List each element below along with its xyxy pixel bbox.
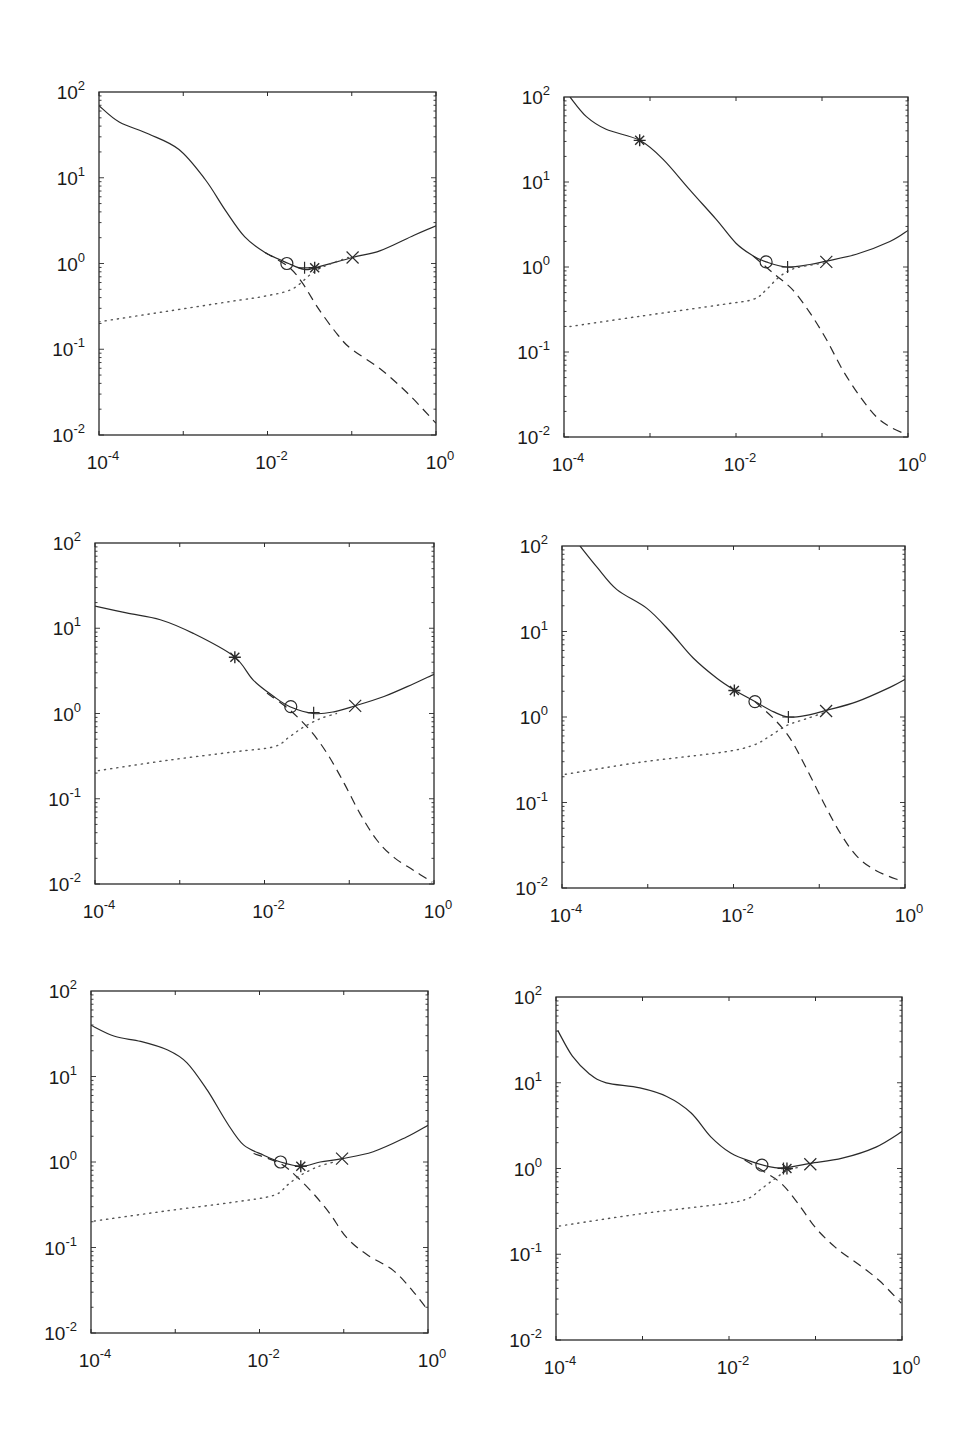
star-marker-icon xyxy=(229,651,241,663)
y-tick-label: 100 xyxy=(53,700,81,725)
solid-curve xyxy=(99,106,436,270)
star-marker-icon xyxy=(295,1160,307,1172)
y-tick-label: 102 xyxy=(57,78,85,103)
dashed-curve xyxy=(753,256,906,434)
dashed-curve xyxy=(267,693,432,882)
y-tick-label: 10-2 xyxy=(44,1319,77,1344)
x-tick-label: 10-2 xyxy=(252,897,285,922)
solid-curve xyxy=(95,606,434,714)
star-marker-icon xyxy=(781,1163,793,1175)
plus-marker-icon xyxy=(782,261,794,273)
x-tick-label: 100 xyxy=(895,901,923,926)
x-tick-label: 100 xyxy=(424,897,452,922)
axes-frame xyxy=(99,92,436,435)
y-tick-label: 102 xyxy=(514,983,542,1008)
axes-frame xyxy=(564,97,908,437)
solid-curve xyxy=(580,546,905,717)
y-tick-label: 100 xyxy=(520,703,548,728)
x-tick-label: 10-4 xyxy=(79,1346,112,1371)
y-tick-label: 10-2 xyxy=(509,1326,542,1351)
y-tick-label: 10-1 xyxy=(517,338,550,363)
x-marker-icon xyxy=(349,700,361,712)
dotted-curve xyxy=(98,714,336,771)
x-tick-label: 10-2 xyxy=(255,448,288,473)
star-marker-icon xyxy=(728,684,740,696)
y-tick-label: 101 xyxy=(57,164,85,189)
y-tick-label: 101 xyxy=(49,1063,77,1088)
dashed-curve xyxy=(755,702,902,882)
y-tick-label: 10-2 xyxy=(52,421,85,446)
y-tick-label: 10-2 xyxy=(48,870,81,895)
y-tick-label: 101 xyxy=(53,614,81,639)
plot-row2-col2: 10-210-110010110210-410-2100 xyxy=(515,532,923,926)
plot-row1-col1: 10-210-110010110210-410-2100 xyxy=(52,78,454,473)
x-tick-label: 100 xyxy=(426,448,454,473)
x-marker-icon xyxy=(336,1153,348,1165)
plus-marker-icon xyxy=(308,707,320,719)
y-tick-label: 101 xyxy=(520,618,548,643)
x-tick-label: 100 xyxy=(898,450,926,475)
y-tick-label: 10-1 xyxy=(509,1240,542,1265)
y-tick-label: 102 xyxy=(49,977,77,1002)
star-marker-icon xyxy=(309,262,321,274)
plot-row3-col2: 10-210-110010110210-410-2100 xyxy=(509,983,920,1378)
plot-row1-col2: 10-210-110010110210-410-2100 xyxy=(517,83,926,475)
x-tick-label: 10-4 xyxy=(550,901,583,926)
solid-curve xyxy=(91,1025,428,1166)
axes-frame xyxy=(562,546,905,888)
y-tick-label: 100 xyxy=(49,1148,77,1173)
x-tick-label: 100 xyxy=(892,1353,920,1378)
y-tick-label: 10-1 xyxy=(44,1234,77,1259)
dotted-curve xyxy=(94,1162,333,1221)
y-tick-label: 102 xyxy=(53,529,81,554)
y-tick-label: 10-1 xyxy=(515,789,548,814)
y-tick-label: 10-2 xyxy=(515,874,548,899)
x-tick-label: 10-2 xyxy=(717,1353,750,1378)
y-tick-label: 10-2 xyxy=(517,423,550,448)
dashed-curve xyxy=(265,252,436,423)
star-marker-icon xyxy=(634,134,646,146)
plus-marker-icon xyxy=(782,711,794,723)
plot-row2-col1: 10-210-110010110210-410-2100 xyxy=(48,529,452,922)
y-tick-label: 102 xyxy=(520,532,548,557)
x-tick-label: 10-4 xyxy=(544,1353,577,1378)
y-tick-label: 100 xyxy=(522,253,550,278)
plot-row3-col1: 10-210-110010110210-410-2100 xyxy=(44,977,446,1371)
solid-curve xyxy=(570,97,908,267)
axes-frame xyxy=(91,991,428,1333)
figure-grid: 10-210-110010110210-410-2100 10-210-1100… xyxy=(0,0,970,1447)
dashed-curve xyxy=(745,1160,902,1303)
y-tick-label: 102 xyxy=(522,83,550,108)
x-tick-label: 10-4 xyxy=(83,897,116,922)
y-tick-label: 100 xyxy=(514,1155,542,1180)
dotted-curve xyxy=(560,1167,802,1226)
axes-frame xyxy=(95,543,434,884)
x-tick-label: 100 xyxy=(418,1346,446,1371)
axes-frame xyxy=(556,997,902,1340)
y-tick-label: 10-1 xyxy=(48,785,81,810)
x-tick-label: 10-2 xyxy=(721,901,754,926)
y-tick-label: 100 xyxy=(57,250,85,275)
dashed-curve xyxy=(254,1154,427,1309)
y-tick-label: 101 xyxy=(522,168,550,193)
solid-curve xyxy=(558,1030,902,1168)
x-tick-label: 10-2 xyxy=(247,1346,280,1371)
x-tick-label: 10-4 xyxy=(552,450,585,475)
x-tick-label: 10-2 xyxy=(724,450,757,475)
dotted-curve xyxy=(565,712,827,774)
x-tick-label: 10-4 xyxy=(87,448,120,473)
y-tick-label: 101 xyxy=(514,1069,542,1094)
circle-marker-icon xyxy=(281,258,293,270)
y-tick-label: 10-1 xyxy=(52,335,85,360)
